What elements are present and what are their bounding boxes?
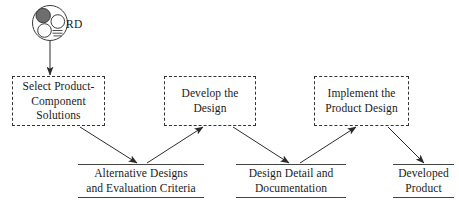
process-label-line-1: Implement the <box>327 87 395 99</box>
process-label-line-2: Design <box>193 102 226 114</box>
artifact-label-line-2: Documentation <box>236 181 346 196</box>
artifact-label-line-1: Design Detail and <box>236 166 346 181</box>
process-flow-diagram: RD Select Product- Component Solutions D… <box>0 0 459 206</box>
connector-artifact-1-to-process-2 <box>147 127 203 163</box>
process-label-line-3: Solutions <box>36 109 80 121</box>
process-box-implement-the-product-design[interactable]: Implement the Product Design <box>314 76 409 126</box>
connector-artifact-2-to-process-3 <box>300 127 356 163</box>
artifact-alternative-designs-and-evaluation-criteria[interactable]: Alternative Designs and Evaluation Crite… <box>78 164 204 198</box>
process-label: Select Product- Component Solutions <box>19 79 97 123</box>
artifact-developed-product[interactable]: Developed Product <box>393 164 454 198</box>
process-label: Implement the Product Design <box>322 86 401 115</box>
artifact-label-line-2: and Evaluation Criteria <box>78 181 204 196</box>
artifact-label-line-1: Alternative Designs <box>78 166 204 181</box>
connector-process-2-to-artifact-2 <box>233 127 289 163</box>
process-label: Develop the Design <box>179 86 242 115</box>
process-box-develop-the-design[interactable]: Develop the Design <box>164 76 256 126</box>
process-label-line-2: Product Design <box>325 102 398 114</box>
artifact-label-line-2: Product <box>393 181 454 196</box>
process-label-line-1: Develop the <box>182 87 239 99</box>
role-label: RD <box>66 18 83 30</box>
role-group-icon <box>33 6 68 41</box>
connector-process-1-to-artifact-1 <box>80 127 137 163</box>
process-label-line-2: Component <box>31 95 86 107</box>
process-label-line-1: Select Product- <box>22 80 94 92</box>
process-box-select-product-component-solutions[interactable]: Select Product- Component Solutions <box>12 76 105 126</box>
artifact-label-line-1: Developed <box>393 166 454 181</box>
connector-process-3-to-artifact-3 <box>388 127 424 163</box>
artifact-design-detail-and-documentation[interactable]: Design Detail and Documentation <box>236 164 346 198</box>
